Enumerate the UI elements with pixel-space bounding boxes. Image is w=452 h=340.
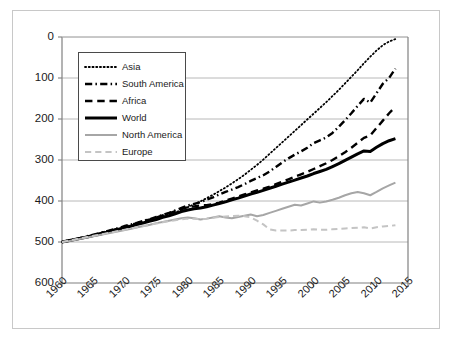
legend-label: Africa	[122, 96, 146, 106]
y-tick-label: 500	[20, 236, 54, 248]
legend-item-europe: Europe	[79, 143, 187, 161]
legend-item-world: World	[79, 109, 187, 127]
legend-label: Asia	[122, 62, 140, 72]
chart-figure: 6005004003002001000 19601965197019751980…	[0, 0, 452, 340]
series-line-north-america	[62, 183, 395, 242]
legend-label: North America	[122, 130, 182, 140]
y-tick-label: 400	[20, 195, 54, 207]
legend-item-north-america: North America	[79, 126, 187, 144]
y-tick-label: 100	[20, 72, 54, 84]
y-tick-label: 300	[20, 154, 54, 166]
legend-swatch-icon	[84, 60, 118, 74]
y-tick-label: 200	[20, 113, 54, 125]
legend-label: Europe	[122, 147, 153, 157]
chart-legend: AsiaSouth AmericaAfricaWorldNorth Americ…	[78, 52, 186, 161]
legend-swatch-icon	[84, 145, 118, 159]
legend-swatch-icon	[84, 111, 118, 125]
legend-label: World	[122, 113, 147, 123]
legend-label: South America	[122, 79, 184, 89]
legend-item-asia: Asia	[79, 58, 187, 76]
legend-swatch-icon	[84, 128, 118, 142]
legend-item-africa: Africa	[79, 92, 187, 110]
legend-swatch-icon	[84, 94, 118, 108]
legend-item-south-america: South America	[79, 75, 187, 93]
line-chart-plot	[0, 0, 452, 340]
legend-swatch-icon	[84, 77, 118, 91]
y-tick-label: 0	[20, 31, 54, 43]
